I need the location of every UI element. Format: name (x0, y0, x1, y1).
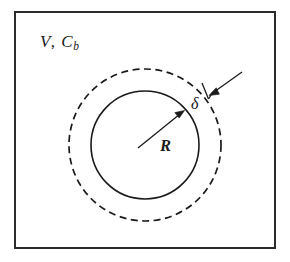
label-comma: , (51, 32, 56, 51)
concentration-symbol: C (61, 32, 73, 51)
concentration-subscript: b (73, 40, 79, 52)
delta-label: δ (191, 96, 198, 112)
figure-container: V, Cb R δ (0, 0, 290, 262)
volume-symbol: V (40, 32, 51, 51)
radius-label: R (160, 138, 171, 155)
bulk-properties-label: V, Cb (40, 33, 79, 53)
